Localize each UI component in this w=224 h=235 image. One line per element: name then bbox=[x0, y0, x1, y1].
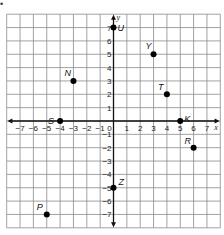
y-arrow-up-icon bbox=[111, 15, 116, 20]
y-tick-label: 5 bbox=[107, 50, 112, 59]
plotted-points: UYNTSKRZP bbox=[37, 23, 197, 218]
x-tick-label: −4 bbox=[56, 124, 66, 133]
y-tick-label: −1 bbox=[102, 130, 112, 139]
point-dot-icon bbox=[111, 25, 117, 31]
point-dot-icon bbox=[57, 118, 63, 124]
y-tick-label: 3 bbox=[107, 77, 112, 86]
point-n: N bbox=[64, 68, 76, 84]
y-tick-label: 6 bbox=[107, 37, 112, 46]
point-dot-icon bbox=[151, 51, 157, 57]
point-dot-icon bbox=[164, 91, 170, 97]
y-tick-label: 2 bbox=[107, 90, 112, 99]
point-dot-icon bbox=[70, 78, 76, 84]
point-t: T bbox=[158, 82, 170, 97]
x-tick-label: 1 bbox=[125, 124, 130, 133]
y-tick-label: −2 bbox=[102, 144, 112, 153]
y-tick-label: −6 bbox=[102, 197, 112, 206]
x-tick-label: −3 bbox=[69, 124, 79, 133]
point-label: Y bbox=[146, 41, 153, 51]
y-arrow-down-icon bbox=[111, 222, 116, 227]
point-label: S bbox=[48, 116, 54, 126]
y-tick-label: −3 bbox=[102, 157, 112, 166]
point-k: K bbox=[177, 114, 191, 124]
point-dot-icon bbox=[177, 118, 183, 124]
point-y: Y bbox=[146, 41, 157, 57]
coordinate-plane: xy−7−6−5−4−3−2−1012345677654321−1−2−3−4−… bbox=[0, 0, 224, 235]
point-dot-icon bbox=[44, 211, 50, 217]
point-r: R bbox=[185, 136, 197, 151]
point-label: Z bbox=[118, 177, 125, 187]
x-tick-label: 6 bbox=[191, 124, 196, 133]
point-label: P bbox=[37, 202, 43, 212]
y-tick-label: 1 bbox=[107, 104, 112, 113]
y-tick-label: −7 bbox=[102, 210, 112, 219]
x-arrow-left-icon bbox=[7, 119, 12, 124]
x-tick-label: 2 bbox=[138, 124, 143, 133]
x-tick-label: 5 bbox=[178, 124, 183, 133]
x-tick-label: 7 bbox=[205, 124, 210, 133]
point-label: K bbox=[184, 114, 191, 124]
point-z: Z bbox=[111, 177, 125, 191]
point-dot-icon bbox=[111, 185, 117, 191]
point-label: R bbox=[185, 136, 192, 146]
y-tick-label: −4 bbox=[102, 170, 112, 179]
x-tick-label: 3 bbox=[151, 124, 156, 133]
point-u: U bbox=[111, 23, 125, 33]
point-label: N bbox=[64, 68, 71, 78]
y-tick-label: 4 bbox=[107, 64, 112, 73]
x-tick-label: −2 bbox=[82, 124, 92, 133]
x-tick-label: −6 bbox=[29, 124, 39, 133]
point-label: T bbox=[158, 82, 165, 92]
point-label: U bbox=[118, 23, 125, 33]
y-axis-label: y bbox=[116, 13, 121, 22]
point-p: P bbox=[37, 202, 50, 217]
x-tick-label: −7 bbox=[15, 124, 25, 133]
x-tick-label: 4 bbox=[165, 124, 170, 133]
point-dot-icon bbox=[191, 145, 197, 151]
x-axis-label: x bbox=[213, 123, 218, 132]
